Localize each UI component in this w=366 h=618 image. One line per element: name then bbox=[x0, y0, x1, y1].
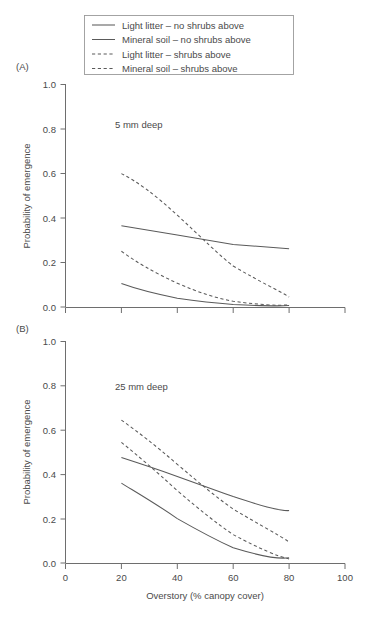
y-tick-label: 0.6 bbox=[43, 168, 56, 179]
panel-a: (A) 5 mm deep Probability of emergence 1… bbox=[16, 61, 345, 313]
panel-a-x-ticks bbox=[66, 308, 346, 314]
y-tick-label: 1.0 bbox=[43, 336, 56, 347]
x-tick-label: 20 bbox=[116, 572, 127, 583]
curve-mineral-soil-no-shrubs bbox=[121, 483, 289, 558]
curve-mineral-soil-no-shrubs bbox=[121, 284, 289, 306]
curve-light-litter-shrubs-above bbox=[121, 174, 289, 297]
legend-item-0: Light litter – no shrubs above bbox=[92, 20, 244, 31]
panel-b-y-axis-label: Probability of emergence bbox=[21, 399, 32, 504]
x-tick-label: 40 bbox=[172, 572, 183, 583]
curve-mineral-soil-shrubs-above bbox=[121, 442, 289, 559]
y-tick-label: 0.4 bbox=[43, 213, 56, 224]
panel-b: (B) 25 mm deep Probability of emergence … bbox=[16, 323, 353, 601]
legend-item-label: Light litter – no shrubs above bbox=[122, 20, 244, 31]
legend-item-2: Light litter – shrubs above bbox=[92, 49, 231, 60]
panel-b-y-ticks: 1.0 0.8 0.6 0.4 0.2 0.0 bbox=[43, 336, 66, 569]
y-tick-label: 0.4 bbox=[43, 469, 56, 480]
x-tick-label: 80 bbox=[284, 572, 295, 583]
curve-light-litter-shrubs-above bbox=[121, 420, 289, 542]
legend-item-label: Mineral soil – shrubs above bbox=[122, 63, 238, 74]
curve-light-litter-no-shrubs bbox=[121, 458, 289, 511]
curve-mineral-soil-shrubs-above bbox=[121, 251, 289, 305]
legend-item-3: Mineral soil – shrubs above bbox=[92, 63, 238, 74]
legend-item-label: Light litter – shrubs above bbox=[122, 49, 231, 60]
panel-a-y-axis-label: Probability of emergence bbox=[21, 143, 32, 248]
y-tick-label: 1.0 bbox=[43, 79, 56, 90]
y-tick-label: 0.8 bbox=[43, 380, 56, 391]
x-axis-label: Overstory (% canopy cover) bbox=[146, 590, 264, 601]
panel-a-annotation: 5 mm deep bbox=[115, 119, 163, 130]
x-tick-label: 60 bbox=[228, 572, 239, 583]
y-tick-label: 0.6 bbox=[43, 425, 56, 436]
panel-b-annotation: 25 mm deep bbox=[115, 381, 168, 392]
legend-item-1: Mineral soil – no shrubs above bbox=[92, 34, 251, 45]
legend: Light litter – no shrubs above Mineral s… bbox=[85, 16, 294, 75]
panel-b-x-ticks: 0 20 40 60 80 100 bbox=[63, 564, 353, 584]
y-tick-label: 0.2 bbox=[43, 257, 56, 268]
y-tick-label: 0.8 bbox=[43, 124, 56, 135]
curve-light-litter-no-shrubs bbox=[121, 226, 289, 249]
panel-b-label: (B) bbox=[16, 323, 29, 334]
x-tick-label: 0 bbox=[63, 572, 68, 583]
emergence-probability-figure: Light litter – no shrubs above Mineral s… bbox=[0, 0, 366, 618]
legend-item-label: Mineral soil – no shrubs above bbox=[122, 34, 251, 45]
y-tick-label: 0.2 bbox=[43, 514, 56, 525]
panel-a-label: (A) bbox=[16, 61, 29, 72]
y-tick-label: 0.0 bbox=[43, 302, 56, 313]
y-tick-label: 0.0 bbox=[43, 558, 56, 569]
x-tick-label: 100 bbox=[337, 572, 353, 583]
panel-a-y-ticks: 1.0 0.8 0.6 0.4 0.2 0.0 bbox=[43, 79, 66, 313]
figure-container: Light litter – no shrubs above Mineral s… bbox=[0, 0, 366, 618]
